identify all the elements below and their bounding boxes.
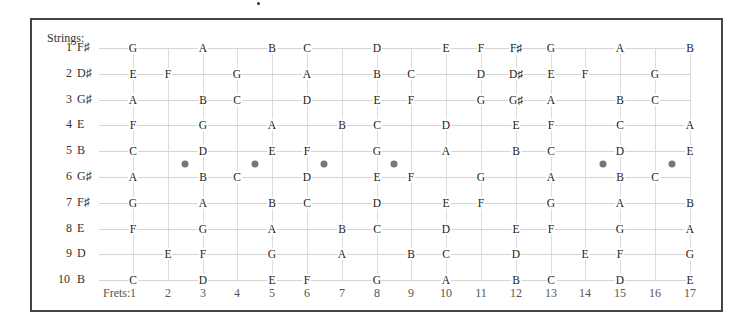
fret-note: E (163, 248, 172, 260)
fret-note: A (198, 42, 208, 54)
fret-note: D (372, 42, 382, 54)
fret-note: A (685, 223, 695, 235)
fret-line (168, 48, 169, 280)
fret-number: 5 (269, 286, 275, 301)
fret-note: A (546, 94, 556, 106)
fret-note: A (441, 145, 451, 157)
string-line (99, 100, 690, 101)
fret-note: C (546, 145, 556, 157)
fret-note: C (441, 248, 451, 260)
fret-line (342, 48, 343, 280)
fret-note: G (615, 223, 625, 235)
fret-note: C (406, 68, 416, 80)
fret-note: G (128, 197, 138, 209)
fret-line (307, 48, 308, 280)
inlay-dot-icon (182, 161, 189, 168)
string-line (99, 151, 690, 152)
fret-note: C (128, 145, 138, 157)
fret-note: A (685, 119, 695, 131)
fret-note: B (337, 119, 347, 131)
fret-note: B (198, 171, 208, 183)
fret-note: C (232, 94, 242, 106)
fret-note: E (441, 197, 450, 209)
string-open-note: F♯ (77, 195, 90, 210)
fret-note: D (198, 274, 208, 286)
string-open-note: F♯ (77, 40, 90, 55)
fret-note: A (198, 197, 208, 209)
fret-note: B (511, 274, 521, 286)
fret-number: 7 (339, 286, 345, 301)
fret-line (133, 48, 134, 280)
fret-note: G (546, 197, 556, 209)
fret-note: G (128, 42, 138, 54)
fret-note: C (650, 94, 660, 106)
fret-note: B (337, 223, 347, 235)
fret-line (551, 48, 552, 280)
fret-note: A (302, 68, 312, 80)
fret-note: E (511, 223, 520, 235)
fret-note: E (372, 171, 381, 183)
fret-note: A (337, 248, 347, 260)
fret-number: 11 (475, 286, 487, 301)
fret-note: F (581, 68, 589, 80)
fret-note: F (547, 223, 555, 235)
fret-note: F (407, 171, 415, 183)
fret-note: B (267, 42, 277, 54)
string-open-note: D♯ (77, 66, 92, 81)
string-open-note: B (77, 272, 85, 287)
fret-note: A (128, 171, 138, 183)
string-number: 8 (50, 221, 72, 236)
fret-note: E (372, 94, 381, 106)
fret-note: A (128, 94, 138, 106)
fret-note: A (441, 274, 451, 286)
fret-note: G (476, 94, 486, 106)
string-line (99, 48, 690, 49)
fret-note: G (198, 119, 208, 131)
fret-note: F (547, 119, 555, 131)
fret-note: F♯ (509, 42, 523, 54)
fret-note: E (267, 274, 276, 286)
fret-note: A (267, 223, 277, 235)
fret-note: C (372, 119, 382, 131)
fret-note: F (129, 119, 137, 131)
fret-line (203, 48, 204, 280)
inlay-dot-icon (391, 161, 398, 168)
fret-note: G (650, 68, 660, 80)
fret-note: B (511, 145, 521, 157)
fret-note: B (685, 197, 695, 209)
fret-line (655, 48, 656, 280)
string-number: 4 (50, 117, 72, 132)
string-number: 3 (50, 92, 72, 107)
fret-number: 6 (304, 286, 310, 301)
fret-note: A (615, 197, 625, 209)
fret-note: D (476, 68, 486, 80)
fret-note: B (198, 94, 208, 106)
string-open-note: G♯ (77, 92, 92, 107)
fret-note: B (685, 42, 695, 54)
fret-number: 14 (579, 286, 591, 301)
fret-note: C (302, 42, 312, 54)
inlay-dot-icon (600, 161, 607, 168)
fret-note: E (128, 68, 137, 80)
fret-note: C (372, 223, 382, 235)
fret-note: B (406, 248, 416, 260)
fret-line (377, 48, 378, 280)
frets-title: Frets: (103, 286, 130, 301)
fret-note: F (477, 197, 485, 209)
inlay-dot-icon (669, 161, 676, 168)
string-line (99, 74, 690, 75)
fret-note: C (128, 274, 138, 286)
fret-line (585, 48, 586, 280)
fret-number: 17 (684, 286, 696, 301)
fret-note: E (580, 248, 589, 260)
fret-note: E (685, 274, 694, 286)
string-number: 9 (50, 246, 72, 261)
fret-note: A (267, 119, 277, 131)
fret-number: 8 (374, 286, 380, 301)
fret-number: 9 (408, 286, 414, 301)
fret-note: B (372, 68, 382, 80)
string-number: 6 (50, 169, 72, 184)
fret-note: F (303, 274, 311, 286)
fret-note: F (303, 145, 311, 157)
fret-note: D (615, 145, 625, 157)
